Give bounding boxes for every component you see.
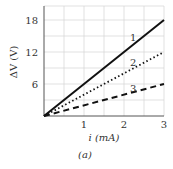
- y-tick-12: 12: [25, 47, 38, 58]
- y-tick-18: 18: [25, 15, 38, 26]
- series-3-label: 3: [130, 83, 136, 94]
- figure-caption: (a): [78, 149, 92, 160]
- y-axis-label: ΔV (V): [8, 46, 19, 79]
- x-tick-3: 3: [161, 119, 167, 130]
- series-2-label: 2: [130, 57, 136, 68]
- chart: 1 2 3 18 12 6 1 2 3 i (mA) ΔV (V) (a): [0, 0, 173, 169]
- x-tick-2: 2: [121, 119, 127, 130]
- x-tick-1: 1: [81, 119, 87, 130]
- x-axis-label: i (mA): [89, 132, 120, 143]
- series-1-label: 1: [130, 32, 136, 43]
- y-tick-6: 6: [32, 79, 38, 90]
